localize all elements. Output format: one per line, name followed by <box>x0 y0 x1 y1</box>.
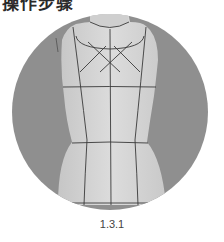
figure-caption: 1.3.1 <box>0 218 224 230</box>
bust-line-tape <box>63 87 156 88</box>
dress-form-figure <box>0 0 224 224</box>
dress-form-body <box>58 12 166 205</box>
